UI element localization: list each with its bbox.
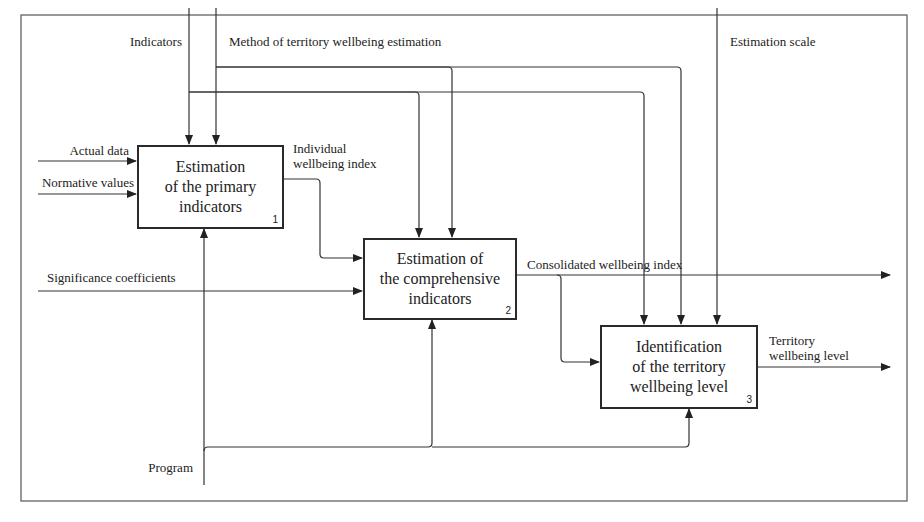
significance-coefficients-label: Significance coefficients <box>47 270 176 285</box>
territory-level-line1: Territory <box>769 333 849 348</box>
normative-values-label: Normative values <box>20 175 134 190</box>
program-branch-box2 <box>204 320 432 451</box>
consolidated-to-box3-arrow <box>557 275 599 362</box>
consolidated-index-label: Consolidated wellbeing index <box>527 257 682 272</box>
box-title: Estimation of the primary indicators <box>165 157 257 217</box>
estimation-scale-label: Estimation scale <box>730 34 816 49</box>
program-branch-box3 <box>432 409 689 447</box>
individual-index-label: Individual wellbeing index <box>293 141 376 171</box>
territory-level-label: Territory wellbeing level <box>769 333 849 363</box>
box-number: 3 <box>746 394 752 405</box>
territory-level-line2: wellbeing level <box>769 348 849 363</box>
box-title: Identification of the territory wellbein… <box>630 337 728 397</box>
box-comprehensive-indicators: Estimation of the comprehensive indicato… <box>363 238 517 320</box>
box-number: 1 <box>272 214 278 225</box>
box-territory-wellbeing-level: Identification of the territory wellbein… <box>600 325 758 409</box>
individual-index-line1: Individual <box>293 141 376 156</box>
box-title: Estimation of the comprehensive indicato… <box>380 249 500 309</box>
indicators-label: Indicators <box>100 34 182 49</box>
program-label: Program <box>100 460 193 475</box>
individual-index-line2: wellbeing index <box>293 156 376 171</box>
individual-index-arrow <box>284 179 362 258</box>
box-primary-indicators: Estimation of the primary indicators 1 <box>137 145 284 229</box>
actual-data-label: Actual data <box>20 143 129 158</box>
method-label: Method of territory wellbeing estimation <box>229 34 441 49</box>
box-number: 2 <box>505 305 511 316</box>
